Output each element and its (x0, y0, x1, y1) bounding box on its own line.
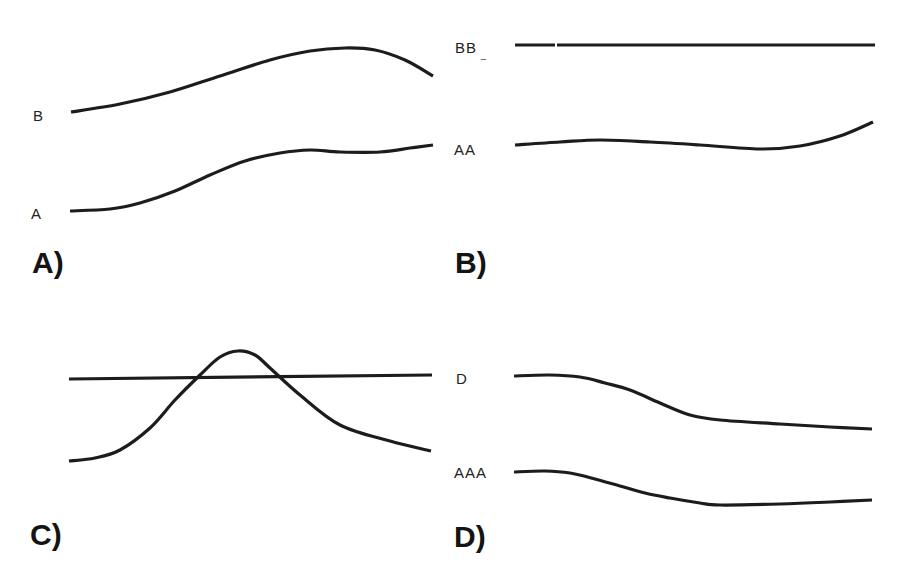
curve-label-b: B (33, 107, 44, 124)
panel-a: B A A) (31, 48, 433, 279)
panel-label-b: B) (455, 246, 487, 279)
curve-label-d: D (456, 370, 468, 387)
panel-b: BB _ AA B) (454, 39, 875, 279)
panel-label-c: C) (30, 518, 62, 551)
curve-label-a: A (31, 205, 42, 222)
panel-c: C) (30, 351, 432, 551)
curve-label-aa: AA (454, 141, 476, 158)
curve-a (70, 145, 433, 211)
curve-label-aaa: AAA (454, 464, 487, 481)
curve-c-peak (69, 351, 431, 461)
panel-label-a: A) (32, 246, 64, 279)
panel-label-d: D) (454, 520, 486, 553)
curve-label-bb: BB (455, 39, 477, 56)
curve-d (514, 375, 872, 429)
curve-b (71, 48, 433, 112)
panel-d: D AAA D) (454, 370, 872, 553)
four-panel-curve-diagram: B A A) BB _ AA B) C) D AAA D) (0, 0, 899, 576)
curve-label-bb-mark: _ (480, 50, 487, 60)
curve-c-flat (69, 375, 432, 379)
curve-aa (515, 122, 873, 149)
curve-aaa (514, 471, 872, 505)
